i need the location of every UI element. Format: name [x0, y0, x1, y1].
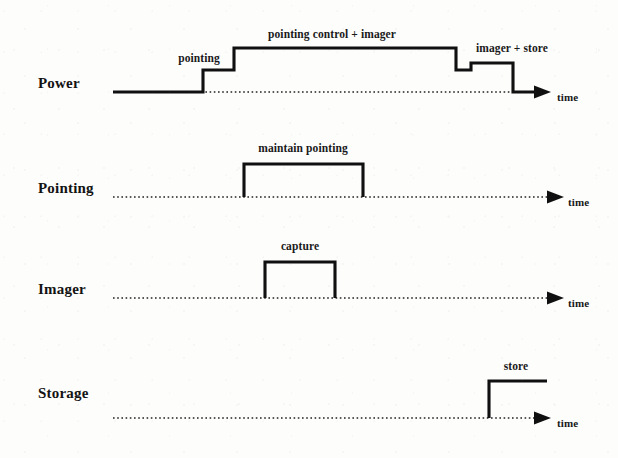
time-axis-label: time: [557, 91, 578, 103]
time-axis-arrow-icon: [547, 191, 564, 204]
segment-label: capture: [281, 240, 319, 253]
segment-label: pointing: [178, 52, 220, 65]
time-axis-arrow-icon: [547, 292, 564, 305]
waveform-power: [113, 48, 538, 92]
timing-diagram-canvas: Powertimepointingpointing control + imag…: [0, 0, 618, 458]
timing-row-pointing: Pointingtimemaintain pointing: [38, 142, 589, 208]
time-axis-arrow-icon: [534, 412, 551, 425]
waveform-imager: [265, 262, 335, 298]
segment-label: imager + store: [476, 42, 548, 55]
segment-label: store: [504, 360, 529, 372]
timing-diagram: Powertimepointingpointing control + imag…: [0, 0, 618, 458]
row-label-imager: Imager: [38, 281, 86, 297]
row-label-storage: Storage: [38, 385, 89, 401]
waveform-storage: [489, 381, 547, 418]
timing-row-storage: Storagetimestore: [38, 360, 578, 429]
segment-label: pointing control + imager: [268, 28, 396, 41]
time-axis-label: time: [557, 417, 578, 429]
timing-row-imager: Imagertimecapture: [38, 240, 589, 309]
segment-label: maintain pointing: [258, 142, 348, 155]
row-label-power: Power: [38, 75, 80, 91]
time-axis-label: time: [568, 196, 589, 208]
timing-row-power: Powertimepointingpointing control + imag…: [38, 28, 578, 103]
row-label-pointing: Pointing: [38, 180, 94, 196]
time-axis-label: time: [568, 297, 589, 309]
waveform-pointing: [244, 164, 363, 197]
